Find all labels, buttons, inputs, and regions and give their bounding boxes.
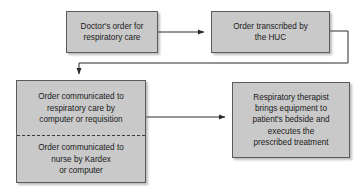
- node-therapist-executes-line-5: prescribed treatment: [253, 137, 328, 148]
- node-order-communicated-respiratory-line-2: respiratory care by: [47, 103, 115, 114]
- node-doctor-order[interactable]: Doctor's order for respiratory care: [66, 11, 158, 53]
- node-therapist-executes[interactable]: Respiratory therapist brings equipment t…: [232, 82, 350, 158]
- node-order-communicated-respiratory-line-1: Order communicated to: [38, 91, 124, 102]
- node-order-transcribed-line-2: the HUC: [255, 32, 286, 43]
- node-order-communicated-nurse-line-2: nurse by Kardex: [51, 154, 111, 165]
- node-therapist-executes-line-3: patient's bedside and: [252, 114, 329, 125]
- flowchart-canvas: Doctor's order for respiratory care Orde…: [0, 0, 363, 196]
- node-order-transcribed-line-1: Order transcribed by: [233, 21, 308, 32]
- node-order-transcribed[interactable]: Order transcribed by the HUC: [211, 11, 330, 53]
- node-order-communicated-respiratory-line-3: computer or requisition: [39, 114, 122, 125]
- node-order-communicated-respiratory[interactable]: Order communicated to respiratory care b…: [17, 81, 145, 135]
- node-doctor-order-line-2: respiratory care: [84, 32, 141, 43]
- node-therapist-executes-line-1: Respiratory therapist: [253, 92, 329, 103]
- node-therapist-executes-line-4: executes the: [268, 126, 314, 137]
- node-order-communicated[interactable]: Order communicated to respiratory care b…: [16, 80, 146, 183]
- node-order-communicated-nurse[interactable]: Order communicated to nurse by Kardex or…: [17, 136, 145, 182]
- node-order-communicated-nurse-line-3: or computer: [59, 165, 103, 176]
- node-therapist-executes-line-2: brings equipment to: [255, 103, 327, 114]
- node-doctor-order-line-1: Doctor's order for: [81, 21, 144, 32]
- node-order-communicated-nurse-line-1: Order communicated to: [38, 142, 124, 153]
